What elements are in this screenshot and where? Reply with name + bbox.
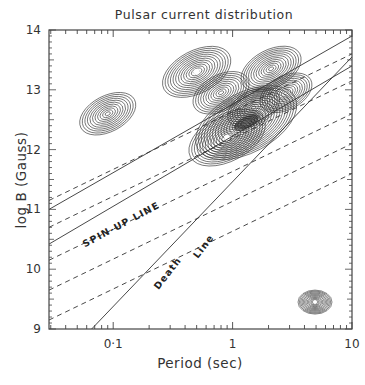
contour-line — [268, 66, 274, 71]
contour-group — [298, 290, 332, 314]
contour-line — [262, 61, 281, 77]
contour-line — [251, 105, 257, 110]
y-tick-label: 9 — [33, 322, 41, 336]
contour-peak — [313, 300, 317, 304]
contour-line — [89, 97, 127, 130]
y-axis-label: log B (Gauss) — [13, 132, 29, 229]
y-tick-label: 10 — [26, 262, 41, 276]
y-tick-label: 13 — [26, 83, 41, 97]
contour-group — [73, 84, 143, 144]
x-tick-label: 10 — [344, 337, 359, 351]
contour-line — [218, 90, 224, 95]
x-tick-label: 0·1 — [104, 337, 123, 351]
contour-line — [215, 87, 228, 98]
contour-line — [255, 56, 286, 83]
contour-line — [265, 64, 278, 75]
x-tick-label: 1 — [229, 337, 237, 351]
contour-line — [105, 111, 111, 116]
contour-line — [98, 105, 117, 121]
contour-line — [199, 74, 244, 112]
contour-line — [92, 100, 124, 127]
dashed-1-line — [49, 54, 352, 201]
chart: Pulsar current distribution 0·1110910111… — [0, 0, 365, 385]
chart-title: Pulsar current distribution — [115, 7, 294, 22]
contour-peak — [194, 69, 200, 75]
contour-line — [73, 84, 143, 144]
annotation-label: Death — [151, 255, 183, 292]
y-tick-label: 14 — [26, 23, 41, 37]
contour-line — [101, 108, 114, 119]
x-axis-label: Period (sec) — [157, 355, 243, 371]
contour-line — [85, 95, 130, 133]
annotation-label: Line — [191, 232, 216, 260]
